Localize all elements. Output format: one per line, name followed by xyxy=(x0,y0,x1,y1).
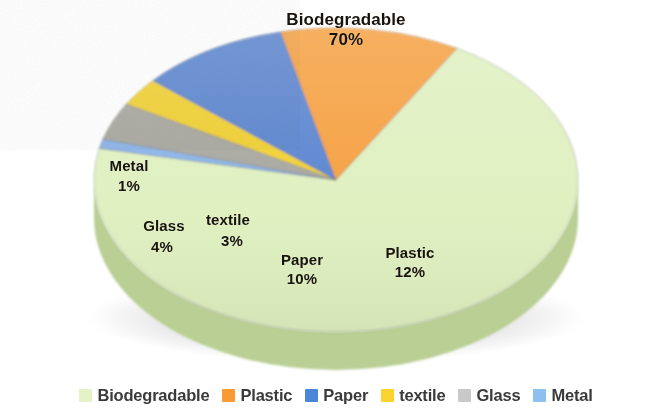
legend-item-glass[interactable]: Glass xyxy=(458,386,520,405)
legend-item-label: textile xyxy=(399,386,445,405)
slice-label-paper-percent: 10% xyxy=(256,271,348,288)
slice-label-glass: Glass 4% xyxy=(128,218,200,256)
slice-label-textile-percent: 3% xyxy=(196,233,268,250)
slice-label-plastic: Plastic 12% xyxy=(362,245,458,281)
pie-chart: Biodegradable 70% Plastic 12% Paper 10% … xyxy=(0,0,672,372)
slice-label-metal-percent: 1% xyxy=(90,178,168,195)
legend-swatch-icon xyxy=(79,389,92,402)
legend-item-label: Paper xyxy=(323,386,368,405)
slice-label-plastic-name: Plastic xyxy=(362,245,458,262)
slice-label-textile-name: textile xyxy=(188,212,268,229)
slice-label-metal-name: Metal xyxy=(90,158,168,175)
slice-label-glass-percent: 4% xyxy=(124,239,200,256)
slice-label-metal: Metal 1% xyxy=(90,158,168,195)
legend-item-label: Metal xyxy=(551,386,592,405)
legend-swatch-icon xyxy=(533,389,546,402)
legend-item-label: Biodegradable xyxy=(97,386,209,405)
legend-item-textile[interactable]: textile xyxy=(381,386,445,405)
slice-label-textile: textile 3% xyxy=(188,212,268,250)
legend-swatch-icon xyxy=(458,389,471,402)
slice-label-biodegradable: Biodegradable 70% xyxy=(246,10,446,49)
slice-label-paper-name: Paper xyxy=(256,252,348,269)
legend-swatch-icon xyxy=(222,389,235,402)
slice-label-plastic-percent: 12% xyxy=(362,264,458,281)
legend-swatch-icon xyxy=(381,389,394,402)
legend-item-biodegradable[interactable]: Biodegradable xyxy=(79,386,209,405)
slice-label-paper: Paper 10% xyxy=(256,252,348,288)
slice-label-biodegradable-name: Biodegradable xyxy=(246,10,446,29)
legend-swatch-icon xyxy=(305,389,318,402)
legend-item-label: Glass xyxy=(476,386,520,405)
legend-item-paper[interactable]: Paper xyxy=(305,386,368,405)
slice-label-biodegradable-percent: 70% xyxy=(246,30,446,49)
legend-item-metal[interactable]: Metal xyxy=(533,386,592,405)
slice-label-glass-name: Glass xyxy=(128,218,200,235)
legend-item-label: Plastic xyxy=(240,386,292,405)
chart-legend: BiodegradablePlasticPapertextileGlassMet… xyxy=(0,378,672,412)
legend-item-plastic[interactable]: Plastic xyxy=(222,386,292,405)
